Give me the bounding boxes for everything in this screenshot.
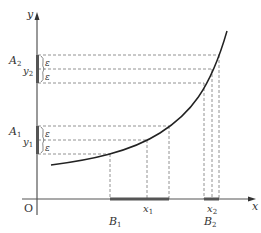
y2-label: y2 xyxy=(22,65,33,78)
epsilon-a2-upper: ε xyxy=(45,58,50,68)
a1-label: A1 xyxy=(8,125,21,139)
axes xyxy=(22,16,252,215)
b2-interval-highlight xyxy=(204,198,219,201)
epsilon-delta-diagram: y x O A2 y2 ε ε A1 y1 ε ε x1 B1 x2 B2 xyxy=(0,0,261,233)
b1-label: B1 xyxy=(108,215,122,229)
a1-band-dashed-lines xyxy=(38,126,169,154)
y1-label: y1 xyxy=(22,136,33,149)
origin-label: O xyxy=(24,202,33,215)
epsilon-a1-lower: ε xyxy=(45,143,50,153)
a2-label: A2 xyxy=(8,54,21,68)
y-axis-label: y xyxy=(26,8,34,21)
function-curve xyxy=(51,31,227,165)
epsilon-a1-upper: ε xyxy=(45,129,50,139)
epsilon-a2-lower: ε xyxy=(45,72,50,82)
a1-band-highlight xyxy=(36,126,39,154)
x-axis-label: x xyxy=(252,200,259,213)
x1-label: x1 xyxy=(143,203,153,216)
epsilon-braces xyxy=(41,56,44,153)
a2-band-dashed-lines xyxy=(38,55,219,83)
y-axis-arrow-icon xyxy=(35,12,40,20)
b2-label: B2 xyxy=(203,215,217,229)
vertical-dashed-lines xyxy=(110,55,219,199)
b1-interval-highlight xyxy=(110,198,169,201)
a2-band-highlight xyxy=(36,55,39,83)
